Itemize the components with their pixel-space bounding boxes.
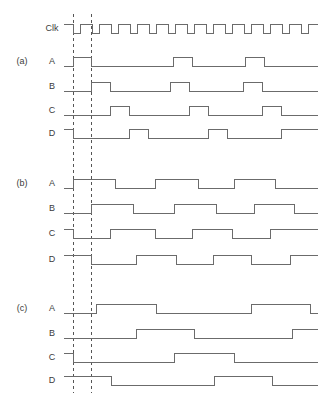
signal-label-a-D: D bbox=[49, 128, 56, 138]
waveform-a-A bbox=[64, 58, 318, 67]
clock-label: Clk bbox=[46, 23, 59, 33]
signal-label-a-C: C bbox=[49, 105, 56, 115]
signal-label-b-B: B bbox=[49, 203, 55, 213]
signal-label-c-C: C bbox=[49, 352, 56, 362]
timing-diagram-figure: Clk(a)ABCD(b)ABCD(c)ABCD bbox=[0, 0, 332, 393]
signal-label-b-A: A bbox=[49, 178, 55, 188]
signal-label-c-B: B bbox=[49, 328, 55, 338]
signal-label-b-C: C bbox=[49, 228, 56, 238]
group-label-0: (a) bbox=[17, 56, 28, 66]
clock-waveform bbox=[64, 25, 318, 34]
group-label-2: (c) bbox=[17, 303, 28, 313]
waveform-c-D bbox=[64, 377, 318, 386]
waveform-a-D bbox=[64, 130, 318, 139]
signal-label-c-A: A bbox=[49, 303, 55, 313]
waveform-a-C bbox=[64, 107, 318, 116]
waveform-b-A bbox=[64, 180, 318, 189]
group-label-1: (b) bbox=[17, 178, 28, 188]
timing-diagram-canvas: Clk(a)ABCD(b)ABCD(c)ABCD bbox=[0, 0, 332, 393]
waveform-b-D bbox=[64, 256, 318, 265]
signal-label-c-D: D bbox=[49, 375, 56, 385]
waveform-c-A bbox=[64, 305, 318, 314]
waveform-c-C bbox=[64, 354, 318, 363]
waveform-b-C bbox=[64, 230, 318, 239]
waveform-c-B bbox=[64, 330, 318, 339]
waveform-a-B bbox=[64, 83, 318, 92]
waveform-b-B bbox=[64, 205, 318, 214]
signal-label-b-D: D bbox=[49, 254, 56, 264]
signal-label-a-B: B bbox=[49, 81, 55, 91]
signal-label-a-A: A bbox=[49, 56, 55, 66]
